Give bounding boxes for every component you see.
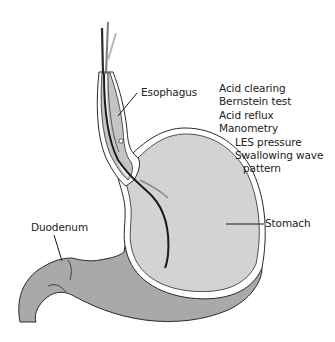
duodenum-label: Duodenum [31, 221, 88, 234]
diagram-canvas: Esophagus Duodenum Stomach Acid clearing… [0, 0, 335, 342]
sensor-dot [119, 139, 123, 143]
test-item-acid-reflux: Acid reflux [219, 109, 323, 122]
test-item-acid-clearing: Acid clearing [219, 82, 323, 95]
catheter-light [108, 33, 116, 60]
catheter-dark [102, 28, 103, 74]
esophagus-label: Esophagus [141, 86, 197, 99]
duodenum-leader-line [54, 235, 62, 261]
test-item-bernstein: Bernstein test [219, 95, 323, 108]
test-subitem-pattern: pattern [219, 162, 323, 175]
test-subitem-les-pressure: LES pressure [219, 136, 323, 149]
test-subitem-swallowing-wave: Swallowing wave [219, 149, 323, 162]
catheter-mid [106, 22, 108, 74]
test-item-manometry: Manometry [219, 122, 323, 135]
test-list: Acid clearing Bernstein test Acid reflux… [219, 82, 323, 176]
stomach-label: Stomach [265, 217, 311, 230]
